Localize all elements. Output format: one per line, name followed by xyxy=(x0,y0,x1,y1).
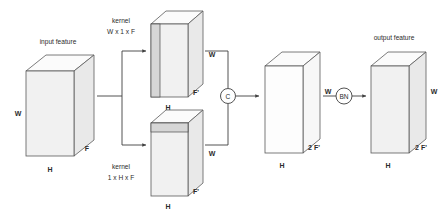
input-feature-depth-label: F xyxy=(85,145,90,152)
kernel-top-label-line1: kernel xyxy=(112,17,130,24)
kernel-bottom-cube-front-face xyxy=(151,123,188,196)
concat-node-label: C xyxy=(226,93,231,100)
kernel-top-label-line2: W x 1 x F xyxy=(107,28,135,35)
input-split-wires: kernel W x 1 x F kernel 1 x H x F xyxy=(97,17,146,181)
input-feature-height-label: H xyxy=(47,166,52,173)
concat-cube-height-label: H xyxy=(279,162,284,169)
diagram-canvas: input feature W F H kernel W x 1 x F ker… xyxy=(0,0,441,215)
input-feature-label: input feature xyxy=(40,38,77,46)
bn-node-label: BN xyxy=(339,93,348,100)
input-feature-cube-side-face xyxy=(74,55,94,156)
kernel-bottom-label-line1: kernel xyxy=(112,163,130,170)
kernel-top-output-cube: W F' H xyxy=(151,11,216,111)
input-feature-width-label: W xyxy=(15,110,22,117)
input-feature-cube: input feature W F H xyxy=(15,38,94,173)
kernel-bottom-output-cube: W F' H xyxy=(151,110,216,210)
concat-cube-width-label: W xyxy=(325,88,332,95)
kernel-bottom-depth-label: F' xyxy=(193,188,199,195)
kernel-bottom-height-label: H xyxy=(165,203,170,210)
output-feature-cube-front-face xyxy=(371,66,409,153)
output-feature-depth-label: 2 F' xyxy=(415,144,427,151)
concat-merge-wires: C xyxy=(205,51,259,145)
output-feature-width-label: W xyxy=(431,88,438,95)
output-feature-cube: output feature W 2 F' H xyxy=(371,34,438,169)
concat-cube-side-face xyxy=(303,52,320,153)
wire-kernel-bottom-to-concat xyxy=(205,104,228,145)
output-feature-cube-side-face xyxy=(409,52,426,153)
input-feature-cube-front-face xyxy=(26,71,74,156)
concat-cube: W 2 F' H xyxy=(265,52,332,169)
kernel-bottom-cube-horizontal-stripe xyxy=(151,123,188,132)
concat-cube-depth-label: 2 F' xyxy=(308,144,320,151)
kernel-top-cube-side-face xyxy=(188,11,203,97)
kernel-bottom-label-line2: 1 x H x F xyxy=(108,174,134,181)
architecture-diagram: input feature W F H kernel W x 1 x F ker… xyxy=(0,0,441,215)
kernel-bottom-cube-side-face xyxy=(188,110,203,196)
output-feature-label: output feature xyxy=(374,34,415,42)
output-feature-height-label: H xyxy=(385,162,390,169)
kernel-top-depth-label: F' xyxy=(193,89,199,96)
kernel-top-width-label: W xyxy=(209,51,216,58)
kernel-bottom-width-label: W xyxy=(209,150,216,157)
kernel-top-cube-vertical-stripe xyxy=(151,24,160,97)
concat-cube-front-face xyxy=(265,66,303,153)
